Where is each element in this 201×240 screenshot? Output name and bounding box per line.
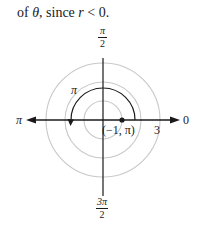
label-arc-pi: π: [71, 84, 77, 96]
label-pi-over-2: π2: [98, 26, 107, 49]
label-zero-right: 0: [183, 114, 189, 126]
point-marker: [119, 117, 124, 122]
arc-arrow-icon: [68, 119, 75, 126]
left-arrow-icon: [26, 117, 36, 124]
right-arrow-icon: [170, 117, 180, 124]
label-radius-3: 3: [154, 124, 160, 136]
label-point: (−1, π): [102, 124, 135, 136]
label-3pi-over-2: 3π2: [96, 197, 108, 220]
label-pi-left: π: [16, 114, 22, 126]
